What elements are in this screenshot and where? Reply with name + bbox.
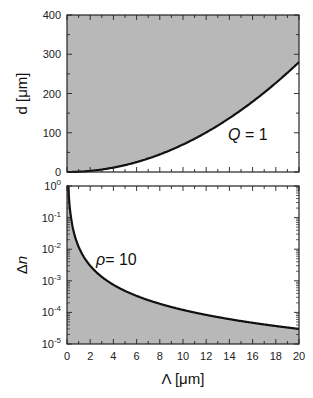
- xlabel: Λ [μm]: [162, 370, 205, 387]
- xtick-label: 12: [200, 350, 212, 362]
- bottom-ytick-label: 10-3: [42, 273, 62, 287]
- xtick-label: 0: [64, 350, 70, 362]
- xtick-label: 10: [177, 350, 189, 362]
- top-ytick-label: 300: [43, 48, 61, 60]
- bottom-ytick-label: 10-5: [42, 336, 62, 350]
- bottom-ytick-label: 100: [44, 178, 61, 192]
- top-ytick-label: 0: [55, 166, 61, 178]
- xtick-label: 6: [134, 350, 140, 362]
- xtick-label: 14: [223, 350, 235, 362]
- figure: 0100200300400d [μm]Q = 110-510-410-310-2…: [0, 0, 313, 398]
- bottom-ytick-label: 10-1: [42, 210, 62, 224]
- xtick-label: 16: [246, 350, 258, 362]
- xtick-label: 8: [157, 350, 163, 362]
- xtick-label: 18: [270, 350, 282, 362]
- bottom-panel: 10-510-410-310-210-110002468101214161820…: [13, 178, 305, 387]
- bottom-ytick-label: 10-2: [42, 241, 62, 255]
- top-ylabel: d [μm]: [13, 73, 30, 115]
- top-ytick-label: 100: [43, 127, 61, 139]
- xtick-label: 20: [293, 350, 305, 362]
- bottom-ylabel: Δn: [13, 256, 30, 274]
- xtick-label: 2: [87, 350, 93, 362]
- q-annotation: Q = 1: [228, 126, 268, 143]
- top-ytick-label: 400: [43, 9, 61, 21]
- top-panel: 0100200300400d [μm]Q = 1: [13, 9, 299, 178]
- rho-annotation: ρ= 10: [95, 251, 137, 268]
- xtick-label: 4: [110, 350, 116, 362]
- top-ytick-label: 200: [43, 88, 61, 100]
- bottom-ytick-label: 10-4: [42, 304, 62, 318]
